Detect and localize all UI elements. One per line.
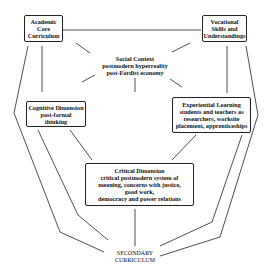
node-line: good work, <box>86 188 193 195</box>
node-line: post-Fordist economy <box>90 69 180 76</box>
node-line: critical postmodern system of <box>86 174 193 181</box>
node-line: placement, apprenticeships <box>173 122 250 129</box>
vocational-skills-node: Vocational Skills and Understandings <box>202 15 247 42</box>
node-line: thinking <box>27 118 85 125</box>
node-line: Core <box>25 25 62 32</box>
node-line: SECONDARY <box>100 250 170 257</box>
node-line: Academic <box>25 18 62 25</box>
node-line: students and teachers as <box>173 108 250 115</box>
node-title: Social Context <box>90 55 180 62</box>
node-line: meaning, concerns with justice, <box>86 181 193 188</box>
social-context-node: Social Context postmodern hyperreality p… <box>90 55 180 76</box>
node-line: Curriculum <box>25 32 62 39</box>
node-line: Skills and <box>203 25 246 32</box>
academic-core-curriculum-node: Academic Core Curriculum <box>24 15 63 42</box>
node-line: democracy and power relations <box>86 195 193 202</box>
critical-dimension-node: Critical Dimension critical postmodern s… <box>85 163 194 206</box>
node-title: Experiential Learning <box>173 101 250 108</box>
node-line: CURRICULUM <box>100 257 170 264</box>
node-line: post-formal <box>27 111 85 118</box>
cognitive-dimension-node: Cognitive Dimension post-formal thinking <box>26 101 86 127</box>
node-line: Understandings <box>203 32 246 39</box>
node-title: Critical Dimension <box>86 167 193 174</box>
secondary-curriculum-node: SECONDARY CURRICULUM <box>100 250 170 264</box>
node-line: postmodern hyperreality <box>90 62 180 69</box>
node-line: Vocational <box>203 18 246 25</box>
experiential-learning-node: Experiential Learning students and teach… <box>172 97 251 133</box>
node-line: researchers, worksite <box>173 115 250 122</box>
node-title: Cognitive Dimension <box>27 104 85 111</box>
